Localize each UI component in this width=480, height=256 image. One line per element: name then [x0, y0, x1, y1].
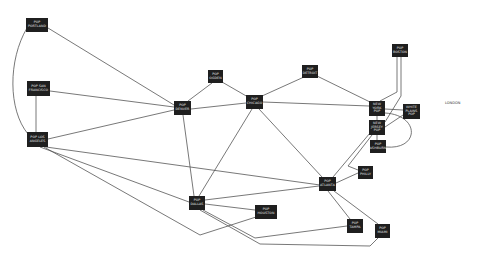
edge-atlanta-dallas: [205, 186, 319, 200]
network-diagram: POP PORTLANDPOP SAN FRANCISCOPOP LOS ANG…: [0, 0, 480, 256]
node-philly[interactable]: POP PHILLY: [358, 166, 373, 179]
node-tampa[interactable]: POP TAMPA: [347, 219, 363, 233]
edge-nj-philly: [348, 135, 372, 170]
node-atlanta[interactable]: POP ATLANTA: [319, 177, 336, 191]
edge-la-atlanta: [46, 147, 320, 185]
node-nj[interactable]: NEW JERSEY POP: [369, 120, 385, 135]
node-detroit[interactable]: POP DETROIT: [302, 65, 318, 78]
node-boston[interactable]: POP BOSTON: [392, 44, 408, 57]
node-nyc[interactable]: NEW YORK POP: [369, 101, 385, 116]
node-miami[interactable]: POP MIAMI: [375, 224, 390, 238]
edge-chicago-nyc: [263, 102, 369, 106]
edge-boston-nj: [385, 57, 401, 122]
edge-layer: [0, 0, 480, 256]
node-ogden[interactable]: POP OGDEN: [208, 70, 223, 83]
edge-nyc-wp: [385, 109, 403, 110]
edge-chicago-dallas: [199, 109, 252, 196]
edge-denver-dallas: [183, 115, 194, 196]
node-dallas[interactable]: POP DALLAS: [189, 196, 205, 210]
edge-philly-atlanta: [336, 173, 358, 183]
edge-chicago-atlanta: [259, 109, 322, 177]
edge-detroit-nyc: [317, 76, 370, 102]
edge-denver-chicago: [191, 103, 246, 109]
edge-chicago-detroit: [262, 77, 304, 96]
node-sf[interactable]: POP SAN FRANCISCO: [27, 81, 50, 96]
node-chicago[interactable]: POP CHICAGO: [246, 95, 263, 109]
node-denver[interactable]: POP DENVER: [174, 101, 191, 115]
label-london: LONDON: [445, 101, 460, 105]
edge-denver-ogden: [188, 83, 212, 101]
edge-la-dallas: [40, 147, 189, 202]
node-la[interactable]: POP LOS ANGELES: [27, 132, 48, 147]
edge-wp-nj: [385, 115, 403, 127]
node-houston[interactable]: POP HOUSTON: [255, 205, 277, 219]
node-wp[interactable]: WHITE PLAINS POP: [403, 104, 420, 119]
edge-dallas-houston: [205, 204, 255, 210]
node-portland[interactable]: POP PORTLAND: [26, 18, 48, 32]
edge-boston-nyc: [380, 57, 397, 101]
node-ashburn[interactable]: POP ASHBURN: [370, 140, 386, 153]
edge-portland-la: [13, 28, 28, 134]
edge-la-denver: [48, 110, 174, 139]
edge-ogden-chicago: [222, 82, 248, 97]
